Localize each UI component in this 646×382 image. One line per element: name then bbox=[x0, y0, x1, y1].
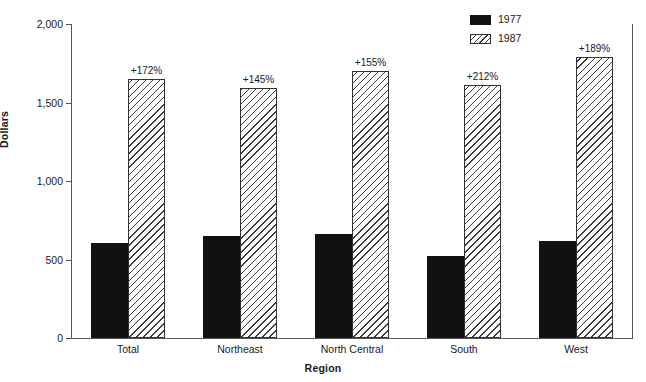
bar-1987-south: +212% bbox=[464, 85, 501, 338]
bar-1987-total: +172% bbox=[128, 79, 165, 338]
bar-annotation: +155% bbox=[355, 58, 386, 68]
caption-strip bbox=[0, 374, 646, 382]
x-axis-line bbox=[71, 338, 633, 339]
bar-annotation: +189% bbox=[579, 44, 610, 54]
legend-item-1977: 1977 bbox=[470, 12, 566, 27]
y-axis-title: Dollars bbox=[0, 111, 10, 148]
x-category-label: Total bbox=[117, 344, 139, 355]
bar-1987-northeast: +145% bbox=[240, 88, 277, 338]
legend-item-1987: 1987 bbox=[470, 31, 566, 46]
bar-annotation: +172% bbox=[131, 66, 162, 76]
x-category-label: Northeast bbox=[217, 344, 263, 355]
bar-1987-west: +189% bbox=[576, 57, 613, 338]
bar-annotation: +145% bbox=[243, 75, 274, 85]
x-category-label: West bbox=[564, 344, 588, 355]
bar-1977-total bbox=[91, 243, 128, 338]
y-tick-label: 1,500 bbox=[37, 97, 63, 108]
y-tick-label: 0 bbox=[57, 333, 63, 344]
bar-1977-south bbox=[427, 256, 464, 338]
bar-annotation: +212% bbox=[467, 72, 498, 82]
x-category-label: North Central bbox=[321, 344, 383, 355]
y-tick-mark bbox=[66, 181, 72, 182]
bar-1987-north-central: +155% bbox=[352, 71, 389, 338]
y-tick-mark bbox=[66, 103, 72, 104]
legend-label-1977: 1977 bbox=[498, 14, 521, 25]
x-category-label: South bbox=[450, 344, 477, 355]
y-tick-label: 500 bbox=[45, 254, 63, 265]
bar-chart: Dollars 05001,0001,5002,000 +172%+145%+1… bbox=[0, 0, 646, 382]
plot-area: 05001,0001,5002,000 +172%+145%+155%+212%… bbox=[72, 24, 632, 338]
y-tick-mark bbox=[66, 338, 72, 339]
y-tick-label: 1,000 bbox=[37, 176, 63, 187]
bar-1977-northeast bbox=[203, 236, 240, 338]
bar-1977-north-central bbox=[315, 234, 352, 338]
legend-swatch-icon-1977 bbox=[470, 15, 491, 25]
y-tick-mark bbox=[66, 260, 72, 261]
legend-swatch-icon-1987 bbox=[470, 34, 491, 44]
legend: 1977 1987 bbox=[470, 12, 566, 50]
y-tick-label: 2,000 bbox=[37, 19, 63, 30]
legend-label-1987: 1987 bbox=[498, 33, 521, 44]
x-axis-title: Region bbox=[0, 362, 646, 374]
y-tick-mark bbox=[66, 24, 72, 25]
bar-1977-west bbox=[539, 241, 576, 338]
right-axis-line bbox=[632, 24, 633, 339]
